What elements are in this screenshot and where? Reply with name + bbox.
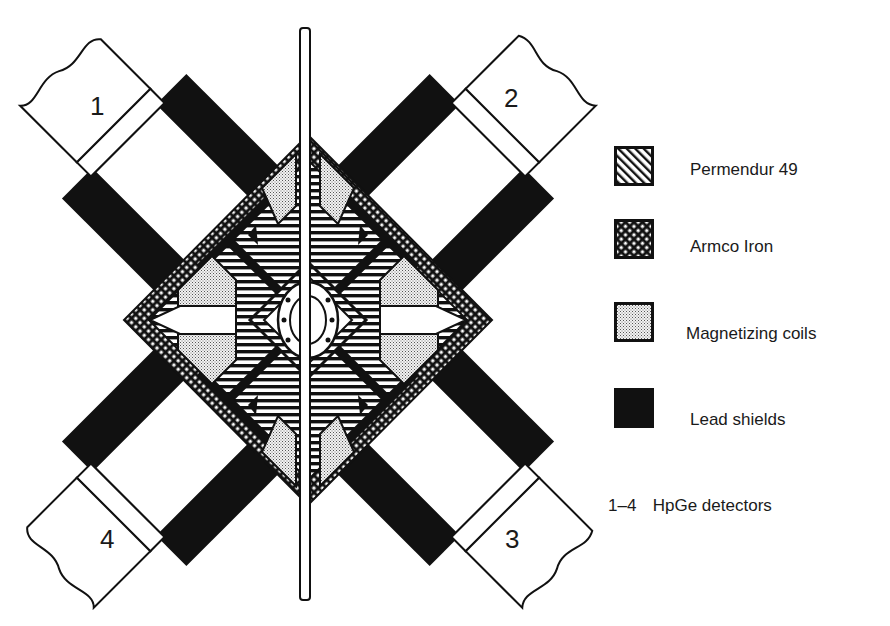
detector-diagram: 1 2 3 4 (0, 0, 890, 626)
svg-text:3: 3 (505, 524, 519, 554)
svg-text:1: 1 (90, 91, 104, 121)
svg-text:4: 4 (100, 524, 114, 554)
sample-rod (300, 28, 310, 600)
svg-text:2: 2 (504, 83, 518, 113)
